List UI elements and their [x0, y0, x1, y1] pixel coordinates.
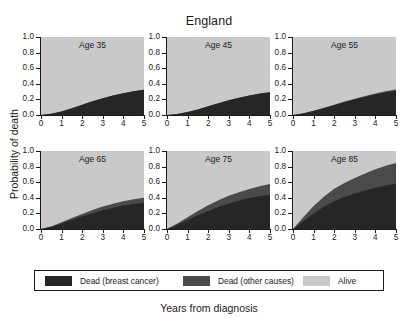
x-tick-label: 0	[160, 119, 174, 128]
y-tick-label: 1.0	[136, 146, 160, 155]
y-tick	[162, 213, 167, 214]
x-tick-label: 2	[75, 119, 89, 128]
legend-entry: Alive	[303, 271, 356, 290]
y-tick	[288, 182, 293, 183]
y-tick	[288, 213, 293, 214]
x-tick-label: 4	[116, 119, 130, 128]
x-tick-label: 4	[242, 233, 256, 242]
y-tick	[36, 84, 41, 85]
y-tick-label: 0.4	[262, 79, 286, 88]
x-axis-line	[166, 229, 270, 230]
x-tick-label: 5	[389, 119, 403, 128]
y-tick	[36, 182, 41, 183]
y-axis-line	[166, 37, 167, 115]
y-axis-line	[40, 37, 41, 115]
y-tick-label: 1.0	[262, 146, 286, 155]
x-axis-line	[292, 229, 396, 230]
y-tick-label: 0.0	[136, 110, 160, 119]
y-tick-label: 0.2	[136, 94, 160, 103]
y-tick	[288, 53, 293, 54]
y-tick-label: 0.4	[136, 79, 160, 88]
y-tick	[162, 167, 167, 168]
y-tick-label: 0.2	[262, 208, 286, 217]
panel-grid: Age 351.00.80.60.40.20.0012345Age 451.00…	[0, 32, 418, 260]
y-axis-line	[166, 151, 167, 229]
x-tick-label: 4	[368, 233, 382, 242]
x-tick-label: 4	[116, 233, 130, 242]
legend-swatch	[303, 276, 330, 286]
y-tick-label: 0.4	[262, 193, 286, 202]
x-tick-label: 2	[201, 233, 215, 242]
y-tick-label: 1.0	[262, 32, 286, 41]
figure-panel-chart: England Probability of death Age 351.00.…	[0, 0, 418, 322]
panel-age-55: Age 551.00.80.60.40.20.0012345	[266, 32, 405, 143]
legend-swatch	[183, 276, 210, 286]
y-tick-label: 0.2	[262, 94, 286, 103]
y-tick-label: 0.0	[10, 224, 34, 233]
y-tick-label: 0.4	[10, 79, 34, 88]
y-tick-label: 1.0	[136, 32, 160, 41]
y-axis-line	[292, 37, 293, 115]
x-tick-label: 1	[307, 119, 321, 128]
y-tick-label: 0.0	[136, 224, 160, 233]
panel-age-75: Age 751.00.80.60.40.20.0012345	[140, 146, 279, 257]
y-tick-label: 0.4	[136, 193, 160, 202]
x-tick-label: 1	[181, 119, 195, 128]
chart-legend: Dead (breast cancer)Dead (other causes)A…	[34, 270, 384, 291]
x-tick-label: 3	[96, 233, 110, 242]
y-tick-label: 1.0	[10, 146, 34, 155]
y-tick-label: 0.2	[136, 208, 160, 217]
y-tick	[36, 37, 41, 38]
y-tick-label: 0.0	[262, 110, 286, 119]
x-tick-label: 0	[34, 233, 48, 242]
x-tick-label: 0	[160, 233, 174, 242]
x-tick-label: 3	[222, 119, 236, 128]
y-tick	[162, 37, 167, 38]
legend-label: Dead (breast cancer)	[80, 276, 159, 286]
y-tick	[36, 167, 41, 168]
y-tick-label: 0.2	[10, 208, 34, 217]
x-axis-line	[40, 229, 144, 230]
plot-area	[293, 151, 396, 229]
area-dead-breast-cancer	[167, 195, 270, 229]
y-tick	[162, 84, 167, 85]
x-axis-line	[292, 115, 396, 116]
y-tick	[162, 182, 167, 183]
y-tick	[36, 198, 41, 199]
x-tick-label: 5	[389, 233, 403, 242]
panel-age-35: Age 351.00.80.60.40.20.0012345	[14, 32, 153, 143]
x-tick-label: 1	[181, 233, 195, 242]
y-tick	[162, 198, 167, 199]
y-tick	[288, 37, 293, 38]
x-tick-label: 0	[286, 233, 300, 242]
area-dead-breast-cancer	[293, 91, 396, 115]
y-tick	[288, 167, 293, 168]
x-tick-label: 4	[242, 119, 256, 128]
y-tick-label: 0.2	[10, 94, 34, 103]
y-tick-label: 0.8	[136, 48, 160, 57]
x-tick-label: 2	[75, 233, 89, 242]
x-tick-label: 0	[286, 119, 300, 128]
y-tick-label: 0.6	[262, 63, 286, 72]
y-tick-label: 0.8	[136, 162, 160, 171]
legend-swatch	[45, 276, 72, 286]
y-tick	[288, 99, 293, 100]
x-tick-label: 3	[96, 119, 110, 128]
y-tick	[162, 53, 167, 54]
x-tick-label: 1	[55, 233, 69, 242]
x-tick-label: 2	[327, 233, 341, 242]
y-tick	[162, 68, 167, 69]
y-tick-label: 0.6	[262, 177, 286, 186]
y-tick	[162, 151, 167, 152]
x-axis-label: Years from diagnosis	[0, 302, 418, 314]
x-tick-label: 3	[348, 233, 362, 242]
y-tick-label: 0.8	[262, 48, 286, 57]
y-tick-label: 0.6	[136, 63, 160, 72]
y-tick	[36, 213, 41, 214]
y-tick	[288, 84, 293, 85]
y-tick	[36, 53, 41, 54]
area-dead-breast-cancer	[167, 92, 270, 115]
y-tick-label: 1.0	[10, 32, 34, 41]
x-tick-label: 2	[327, 119, 341, 128]
x-tick-label: 4	[368, 119, 382, 128]
